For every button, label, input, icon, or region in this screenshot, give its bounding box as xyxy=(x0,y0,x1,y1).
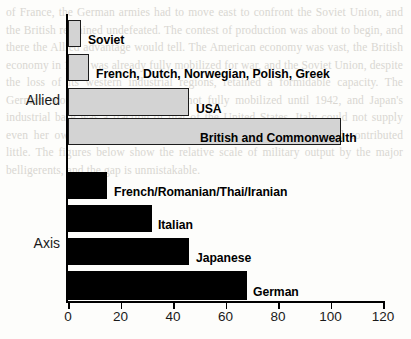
bar xyxy=(68,271,247,300)
bar-label: Soviet xyxy=(88,33,124,47)
bar-label: Italian xyxy=(158,218,193,232)
bar xyxy=(68,88,189,116)
x-axis-tick-label: 100 xyxy=(319,309,342,324)
bar-label: British and Commonwealth xyxy=(200,131,357,145)
bar xyxy=(68,20,81,47)
bar xyxy=(68,54,89,81)
bar-label: German xyxy=(253,285,299,299)
bar xyxy=(68,205,152,232)
x-axis-tick-label: 80 xyxy=(270,309,285,324)
bar xyxy=(68,238,189,265)
group-label-axis: Axis xyxy=(0,235,60,251)
bar-label: French, Dutch, Norwegian, Polish, Greek xyxy=(96,67,330,81)
bar-label: Japanese xyxy=(196,251,251,265)
x-axis-tick-label: 0 xyxy=(64,309,72,324)
group-label-allied: Allied xyxy=(0,92,60,108)
bar xyxy=(68,172,107,199)
bar-label: French/Romanian/Thai/Iranian xyxy=(114,185,287,199)
bar-label: USA xyxy=(196,102,222,116)
x-axis-tick-label: 40 xyxy=(165,309,180,324)
x-axis-tick-label: 60 xyxy=(218,309,233,324)
x-axis-tick-label: 120 xyxy=(372,309,395,324)
bar-chart: SovietFrench, Dutch, Norwegian, Polish, … xyxy=(0,0,411,339)
plot-area: SovietFrench, Dutch, Norwegian, Polish, … xyxy=(68,14,383,303)
x-axis-tick-label: 20 xyxy=(113,309,128,324)
